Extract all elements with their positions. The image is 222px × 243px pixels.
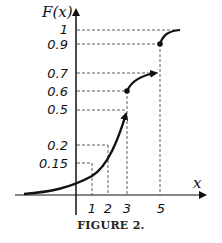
ytick-0.7: 0.7 [47, 66, 68, 81]
ytick-0.5: 0.5 [47, 102, 68, 117]
x-axis-title: x [193, 174, 202, 192]
ytick-0.15: 0.15 [39, 156, 68, 171]
xtick-5: 5 [157, 201, 165, 216]
jump-point-5 [157, 41, 163, 47]
y-axis-title: F(x) [41, 3, 73, 21]
xtick-1: 1 [88, 201, 96, 216]
jump-point-3 [124, 88, 130, 94]
cdf-chart: F(x) 1 0.9 0.7 0.6 0.5 0.2 0.15 1 2 3 5 … [0, 0, 222, 243]
curve-segment-3 [160, 30, 180, 44]
ytick-1: 1 [60, 22, 68, 37]
xtick-2: 2 [104, 201, 112, 216]
reference-lines [77, 30, 180, 195]
figure-caption: FIGURE 2. [0, 219, 222, 232]
ytick-0.6: 0.6 [47, 84, 68, 99]
ytick-0.9: 0.9 [47, 37, 68, 52]
curve-segment-1 [24, 114, 126, 194]
xtick-3: 3 [123, 201, 131, 216]
ytick-0.2: 0.2 [47, 138, 68, 153]
curve-segment-2 [127, 73, 156, 91]
